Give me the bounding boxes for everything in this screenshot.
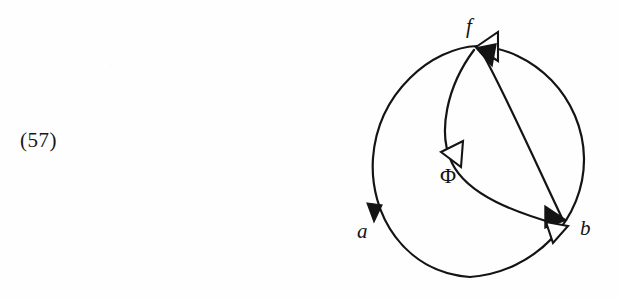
label-phi: Φ (440, 163, 456, 188)
arrow-a-solid-icon (367, 203, 382, 222)
label-a: a (357, 219, 368, 243)
arrow-f-solid-icon (476, 44, 496, 66)
label-f: f (466, 14, 475, 38)
label-b: b (580, 216, 591, 240)
page-canvas: (57) (0, 0, 618, 298)
outer-circle-right-arc (470, 46, 584, 277)
inner-arc-f-to-b (445, 50, 556, 224)
equation-number: (57) (20, 128, 57, 153)
diagram-canvas: f b a Φ (350, 0, 618, 298)
